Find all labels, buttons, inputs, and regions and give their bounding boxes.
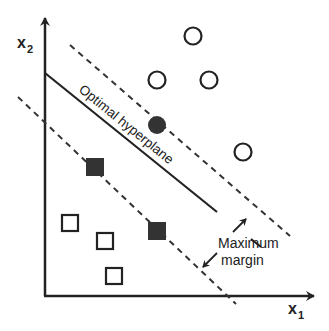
open-circle-point bbox=[235, 144, 252, 161]
optimal-hyperplane bbox=[45, 73, 217, 212]
open-square-point bbox=[97, 233, 113, 249]
open-circle-point bbox=[201, 72, 218, 89]
svg-text:x: x bbox=[17, 34, 26, 51]
svg-text:1: 1 bbox=[298, 309, 304, 321]
margin-label-line1: Maximum bbox=[218, 235, 279, 251]
y-axis-label: x 2 bbox=[17, 34, 33, 55]
open-square-point bbox=[62, 215, 78, 231]
open-circle-point bbox=[185, 28, 202, 45]
margin-arrow-down-icon bbox=[203, 253, 217, 267]
svg-text:2: 2 bbox=[27, 43, 33, 55]
x-axis-label: x 1 bbox=[288, 300, 304, 321]
open-circle-point bbox=[149, 72, 166, 89]
support-vector-circle bbox=[148, 116, 166, 134]
margin-arrow-up-icon bbox=[233, 219, 246, 232]
svg-text:x: x bbox=[288, 300, 297, 317]
circle-class-points bbox=[148, 28, 252, 161]
square-class-points bbox=[62, 158, 166, 284]
svm-diagram: x 2 x 1 Optimal hyperplane Maximum margi… bbox=[0, 0, 329, 331]
margin-label-line2: margin bbox=[221, 252, 264, 268]
upper-margin-boundary bbox=[70, 45, 290, 236]
open-square-point bbox=[106, 268, 122, 284]
support-vector-square bbox=[86, 158, 104, 176]
support-vector-square bbox=[148, 222, 166, 240]
